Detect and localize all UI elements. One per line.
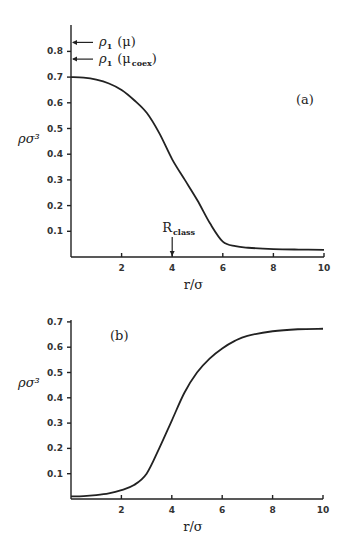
y-tick-label: 0.2: [47, 201, 63, 211]
x-tick-label: 8: [269, 505, 275, 515]
y-tick-label: 0.5: [47, 124, 63, 134]
arrow-annotation: ρ1(μ): [98, 34, 136, 51]
data-curve: [71, 77, 324, 250]
arrow-head-icon: [170, 251, 175, 256]
y-tick-label: 0.4: [47, 393, 63, 403]
y-axis-label: ρσ³: [17, 375, 40, 390]
y-tick-label: 0.1: [47, 469, 63, 479]
x-tick-label: 10: [317, 505, 330, 515]
x-tick-label: 8: [270, 263, 276, 273]
panel-b: 0.10.20.30.40.50.60.7246810r/σρσ³(b): [17, 317, 329, 534]
x-tick-label: 2: [118, 263, 124, 273]
x-axis-label: r/σ: [184, 277, 204, 292]
data-curve: [71, 329, 323, 497]
y-tick-label: 0.1: [47, 226, 63, 236]
x-tick-label: 4: [169, 263, 175, 273]
y-tick-label: 0.3: [47, 175, 63, 185]
x-axis-label: r/σ: [183, 519, 203, 534]
arrow-annotation: ρ1(μcoex): [98, 51, 157, 68]
y-tick-label: 0.6: [47, 342, 63, 352]
y-axis-label: ρσ³: [17, 131, 40, 146]
y-tick-label: 0.7: [47, 317, 63, 327]
figure: 0.10.20.30.40.50.60.70.8246810r/σρσ³(a)ρ…: [0, 0, 345, 556]
arrow-head-icon: [72, 57, 77, 62]
panel-label: (a): [296, 92, 314, 107]
y-tick-label: 0.2: [47, 443, 63, 453]
y-tick-label: 0.3: [47, 418, 63, 428]
y-tick-label: 0.7: [47, 72, 63, 82]
x-tick-label: 4: [169, 505, 175, 515]
x-tick-label: 10: [318, 263, 331, 273]
x-tick-label: 2: [118, 505, 124, 515]
y-tick-label: 0.4: [47, 149, 63, 159]
y-tick-label: 0.8: [47, 46, 63, 56]
x-tick-label: 6: [219, 505, 225, 515]
arrow-head-icon: [72, 40, 77, 45]
x-tick-label: 6: [220, 263, 226, 273]
panel-a: 0.10.20.30.40.50.60.70.8246810r/σρσ³(a)ρ…: [17, 25, 330, 292]
y-tick-label: 0.6: [47, 98, 63, 108]
y-tick-label: 0.5: [47, 368, 63, 378]
panel-label: (b): [110, 328, 128, 343]
r-class-annotation: Rclass: [162, 220, 195, 237]
